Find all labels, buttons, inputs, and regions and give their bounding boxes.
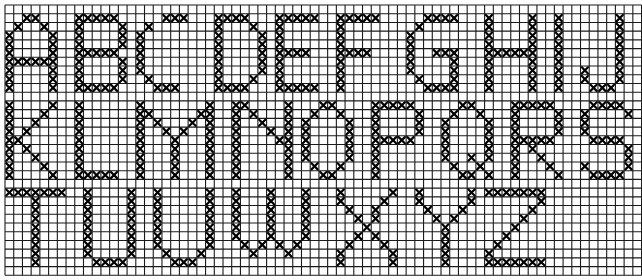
letter-n <box>233 102 291 178</box>
letter-e <box>277 15 318 91</box>
grid-lines <box>5 5 642 275</box>
letter-f <box>338 15 379 91</box>
letter-x <box>338 189 396 265</box>
letter-v <box>155 189 213 265</box>
letter-t <box>6 189 64 265</box>
letter-l <box>76 102 117 178</box>
letter-y <box>416 189 474 265</box>
letter-m <box>137 102 213 178</box>
letter-i <box>556 15 562 91</box>
cross-stitch-grid <box>0 0 642 280</box>
letter-j <box>582 15 623 91</box>
letter-z <box>486 189 544 265</box>
